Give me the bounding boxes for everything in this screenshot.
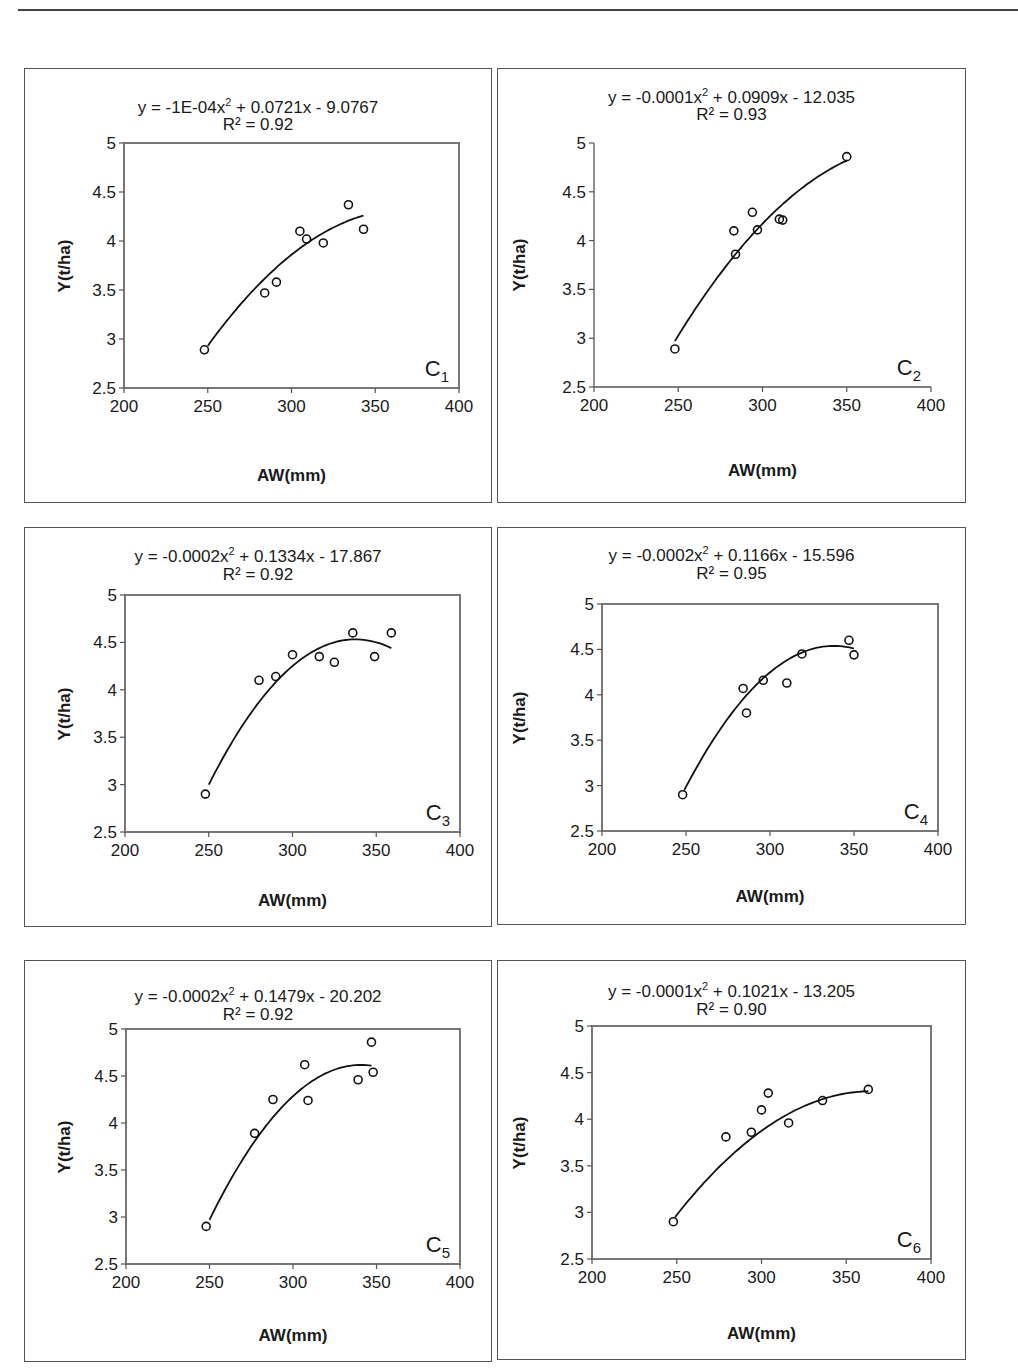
trendline xyxy=(210,1065,372,1220)
x-tick-label: 300 xyxy=(747,1268,775,1287)
x-tick-label: 300 xyxy=(277,397,305,416)
y-tick-label: 2.5 xyxy=(94,1255,118,1274)
data-point xyxy=(272,673,280,681)
data-point xyxy=(864,1085,872,1093)
plot-area: 2.533.544.55200250300350400C3 xyxy=(25,528,493,928)
data-point xyxy=(296,227,304,235)
y-tick-label: 4.5 xyxy=(93,633,117,652)
data-point xyxy=(371,653,379,661)
x-tick-label: 250 xyxy=(672,840,700,859)
y-tick-label: 3.5 xyxy=(94,1161,118,1180)
x-tick-label: 400 xyxy=(445,397,473,416)
data-point xyxy=(261,289,269,297)
plot-area: 2.533.544.55200250300350400C2 xyxy=(498,69,967,504)
y-tick-label: 5 xyxy=(109,1020,118,1039)
x-tick-label: 250 xyxy=(195,1273,223,1292)
x-tick-label: 400 xyxy=(446,1273,474,1292)
chart-panel-c6: y = -0.0001x2 + 0.1021x - 13.205R² = 0.9… xyxy=(497,960,966,1360)
data-point xyxy=(354,1076,362,1084)
data-point xyxy=(679,791,687,799)
data-point xyxy=(201,790,209,798)
x-tick-label: 400 xyxy=(446,841,474,860)
data-point xyxy=(269,1096,277,1104)
trendline xyxy=(675,1091,868,1217)
x-tick-label: 400 xyxy=(924,840,952,859)
y-tick-label: 4 xyxy=(108,681,117,700)
y-tick-label: 2.5 xyxy=(570,822,594,841)
chart-panel-c2: y = -0.0001x2 + 0.0909x - 12.035R² = 0.9… xyxy=(497,68,966,503)
data-point xyxy=(319,239,327,247)
y-tick-label: 3.5 xyxy=(570,731,594,750)
y-tick-label: 4 xyxy=(577,232,586,251)
y-tick-label: 3 xyxy=(109,1208,118,1227)
y-tick-label: 3 xyxy=(585,777,594,796)
y-tick-label: 2.5 xyxy=(562,378,586,397)
x-tick-label: 350 xyxy=(840,840,868,859)
x-tick-label: 350 xyxy=(362,1273,390,1292)
plot-area: 2.533.544.55200250300350400C5 xyxy=(25,961,493,1363)
panel-label: C2 xyxy=(897,355,921,384)
y-tick-label: 4 xyxy=(575,1110,584,1129)
data-point xyxy=(315,653,323,661)
x-tick-label: 200 xyxy=(578,1268,606,1287)
y-tick-label: 4.5 xyxy=(92,183,116,202)
plot-frame xyxy=(602,604,938,831)
data-point xyxy=(730,227,738,235)
data-point xyxy=(255,676,263,684)
panel-label: C1 xyxy=(425,356,449,385)
data-point xyxy=(202,1222,210,1230)
data-point xyxy=(742,709,750,717)
data-point xyxy=(301,1061,309,1069)
plot-area: 2.533.544.55200250300350400C1 xyxy=(25,69,493,504)
data-point xyxy=(783,679,791,687)
data-point xyxy=(387,629,395,637)
chart-panel-c1: y = -1E-04x2 + 0.0721x - 9.0767R² = 0.92… xyxy=(24,68,492,503)
y-tick-label: 5 xyxy=(108,586,117,605)
x-tick-label: 250 xyxy=(194,397,222,416)
data-point xyxy=(764,1089,772,1097)
x-tick-label: 350 xyxy=(361,397,389,416)
data-point xyxy=(785,1119,793,1127)
plot-frame xyxy=(125,595,460,832)
data-point xyxy=(369,1068,377,1076)
trendline xyxy=(209,639,391,784)
data-point xyxy=(289,651,297,659)
chart-panel-c5: y = -0.0002x2 + 0.1479x - 20.202R² = 0.9… xyxy=(24,960,492,1362)
data-point xyxy=(850,651,858,659)
data-point xyxy=(303,235,311,243)
x-tick-label: 350 xyxy=(833,396,861,415)
x-tick-label: 200 xyxy=(112,1273,140,1292)
data-point xyxy=(747,1128,755,1136)
y-tick-label: 4.5 xyxy=(94,1067,118,1086)
data-point xyxy=(367,1038,375,1046)
data-point xyxy=(344,201,352,209)
x-tick-label: 250 xyxy=(663,1268,691,1287)
data-point xyxy=(748,208,756,216)
y-tick-label: 4 xyxy=(107,232,116,251)
x-tick-label: 200 xyxy=(588,840,616,859)
y-tick-label: 3 xyxy=(575,1203,584,1222)
plot-frame xyxy=(126,1029,460,1264)
chart-panel-c3: y = -0.0002x2 + 0.1334x - 17.867R² = 0.9… xyxy=(24,527,492,927)
trendline xyxy=(208,216,364,346)
y-tick-label: 5 xyxy=(107,134,116,153)
y-tick-label: 4.5 xyxy=(562,183,586,202)
y-tick-label: 4.5 xyxy=(560,1064,584,1083)
y-tick-label: 2.5 xyxy=(92,379,116,398)
x-tick-label: 200 xyxy=(580,396,608,415)
x-tick-label: 200 xyxy=(111,841,139,860)
trendline xyxy=(684,646,854,790)
y-tick-label: 4 xyxy=(109,1114,118,1133)
y-tick-label: 2.5 xyxy=(560,1250,584,1269)
data-point xyxy=(758,1106,766,1114)
x-tick-label: 300 xyxy=(756,840,784,859)
data-point xyxy=(349,629,357,637)
plot-frame xyxy=(592,1026,931,1259)
y-tick-label: 3 xyxy=(108,776,117,795)
data-point xyxy=(251,1129,259,1137)
panel-label: C6 xyxy=(897,1227,921,1256)
x-tick-label: 350 xyxy=(832,1268,860,1287)
x-tick-label: 400 xyxy=(917,396,945,415)
data-point xyxy=(722,1133,730,1141)
x-tick-label: 250 xyxy=(664,396,692,415)
